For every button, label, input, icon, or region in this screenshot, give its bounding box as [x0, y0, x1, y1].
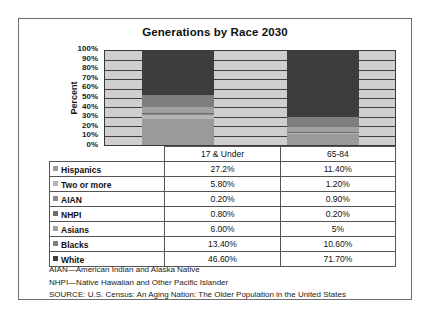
- bar-segment: [287, 132, 359, 133]
- bar-segment: [287, 50, 359, 117]
- table-corner-cell: [50, 147, 165, 162]
- y-axis-tick: 80%: [82, 63, 98, 73]
- table-cell-value: 0.80%: [165, 207, 280, 222]
- row-header-cell: Hispanics: [50, 162, 165, 177]
- row-header-cell: Blacks: [50, 237, 165, 252]
- table-cell-value: 11.40%: [280, 162, 395, 177]
- column-header-65-84: 65-84: [280, 147, 395, 162]
- bar-group: [250, 51, 395, 145]
- table-cell-value: 13.40%: [165, 237, 280, 252]
- y-axis-tick: 10%: [82, 130, 98, 140]
- row-header-cell: NHPI: [50, 207, 165, 222]
- data-table: 17 & Under 65-84 Hispanics27.2%11.40%Two…: [49, 146, 396, 267]
- y-axis-tick: 50%: [82, 92, 98, 102]
- plot-area: [104, 50, 396, 146]
- y-axis-tick: 40%: [82, 102, 98, 112]
- table-row: NHPI0.80%0.20%: [50, 207, 396, 222]
- bar-stack: [142, 51, 214, 145]
- table-cell-value: 27.2%: [165, 162, 280, 177]
- y-axis-tick-labels: 100%90%80%70%60%50%40%30%20%10%0%: [67, 44, 100, 152]
- legend-swatch-icon: [53, 211, 58, 216]
- row-header-label: Two or more: [61, 179, 111, 189]
- y-axis-tick: 100%: [78, 44, 98, 54]
- legend-swatch-icon: [53, 166, 58, 171]
- y-axis-tick: 30%: [82, 111, 98, 121]
- table-header-row: 17 & Under 65-84: [50, 147, 396, 162]
- table-row: Two or more5.80%1.20%: [50, 177, 396, 192]
- table-cell-value: 0.90%: [280, 192, 395, 207]
- bar-segment: [142, 113, 214, 114]
- table-row: AIAN0.20%0.90%: [50, 192, 396, 207]
- row-header-cell: AIAN: [50, 192, 165, 207]
- table-body: Hispanics27.2%11.40%Two or more5.80%1.20…: [50, 162, 396, 267]
- row-header-cell: Two or more: [50, 177, 165, 192]
- chart-title: Generations by Race 2030: [19, 26, 411, 38]
- plot-region: Percent 100%90%80%70%60%50%40%30%20%10%0…: [104, 50, 396, 146]
- chart-card: Generations by Race 2030 Percent 100%90%…: [18, 18, 412, 300]
- table-cell-value: 10.60%: [280, 237, 395, 252]
- footnote-line: SOURCE: U.S. Census: An Aging Nation: Th…: [49, 289, 399, 302]
- row-header-label: Blacks: [61, 239, 88, 249]
- bar-group: [105, 51, 250, 145]
- footnote-line: NHPI—Native Hawaiian and Other Pacific I…: [49, 277, 399, 290]
- bar-segment: [287, 117, 359, 127]
- row-header-label: White: [61, 254, 84, 264]
- legend-swatch-icon: [53, 226, 58, 231]
- bar-stack: [287, 51, 359, 145]
- legend-swatch-icon: [53, 181, 58, 186]
- bar-segment: [142, 95, 214, 108]
- table-header: 17 & Under 65-84: [50, 147, 396, 162]
- legend-swatch-icon: [53, 256, 58, 261]
- column-header-17-under: 17 & Under: [165, 147, 280, 162]
- footnote-line: AIAN—American Indian and Alaska Native: [49, 264, 399, 277]
- row-header-label: Asians: [61, 224, 89, 234]
- y-axis-tick: 60%: [82, 82, 98, 92]
- legend-swatch-icon: [53, 196, 58, 201]
- row-header-cell: Asians: [50, 222, 165, 237]
- y-axis-tick: 90%: [82, 54, 98, 64]
- row-header-label: Hispanics: [61, 164, 101, 174]
- table-cell-value: 0.20%: [280, 207, 395, 222]
- table-cell-value: 6.00%: [165, 222, 280, 237]
- bar-segment: [142, 119, 214, 145]
- table-cell-value: 1.20%: [280, 177, 395, 192]
- footnotes-block: AIAN—American Indian and Alaska NativeNH…: [49, 264, 399, 302]
- table-row: Blacks13.40%10.60%: [50, 237, 396, 252]
- table-cell-value: 0.20%: [165, 192, 280, 207]
- bar-segment: [287, 133, 359, 134]
- bar-segment: [287, 134, 359, 145]
- table-row: Hispanics27.2%11.40%: [50, 162, 396, 177]
- row-header-label: NHPI: [61, 209, 81, 219]
- bar-segment: [142, 51, 214, 95]
- legend-swatch-icon: [53, 241, 58, 246]
- table-cell-value: 5%: [280, 222, 395, 237]
- bar-segment: [287, 127, 359, 132]
- table-row: Asians6.00%5%: [50, 222, 396, 237]
- row-header-label: AIAN: [61, 194, 82, 204]
- y-axis-tick: 20%: [82, 121, 98, 131]
- bar-segment: [142, 114, 214, 119]
- bar-segment: [142, 107, 214, 113]
- y-axis-tick: 70%: [82, 73, 98, 83]
- table-cell-value: 5.80%: [165, 177, 280, 192]
